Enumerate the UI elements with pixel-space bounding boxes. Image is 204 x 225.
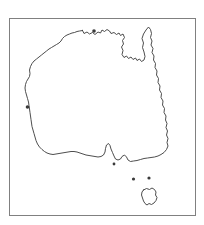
bass-strait-islet-east-icon: [147, 176, 150, 179]
bass-strait-islet-west-icon: [132, 177, 135, 180]
australia-mainland-outline: [25, 27, 168, 162]
map-frame: [9, 18, 196, 216]
arnhem-islet-icon: [92, 29, 96, 33]
australia-map-svg: [10, 19, 195, 215]
kangaroo-island-icon: [113, 163, 116, 166]
tasmania-outline: [142, 188, 158, 205]
figure-root: [0, 0, 204, 225]
shark-bay-islet-icon: [26, 105, 30, 109]
